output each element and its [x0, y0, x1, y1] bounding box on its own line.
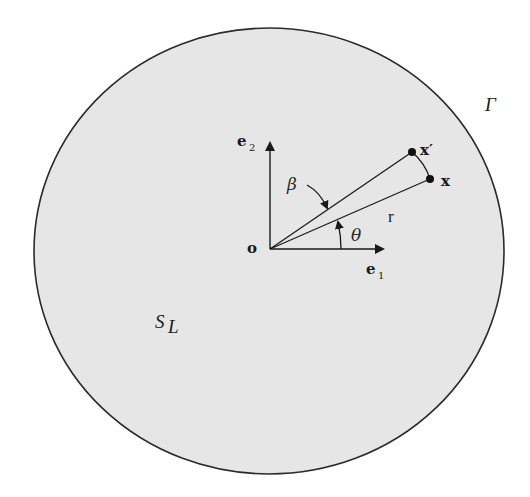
svg-text:e: e	[366, 260, 376, 278]
label-theta: θ	[351, 225, 361, 245]
point-x-prime-dot	[408, 148, 416, 156]
label-point-x: x	[441, 172, 451, 190]
label-beta: β	[286, 174, 297, 194]
svg-text:L: L	[167, 316, 179, 337]
label-gamma: Γ	[484, 94, 497, 115]
label-origin: o	[247, 239, 257, 257]
point-x-dot	[426, 175, 434, 183]
svg-text:1: 1	[378, 270, 384, 281]
label-point-x-prime: x′	[420, 141, 433, 159]
label-radius: r	[388, 207, 394, 226]
domain-region	[34, 28, 504, 474]
svg-text:e: e	[237, 132, 247, 150]
svg-text:2: 2	[249, 142, 255, 153]
svg-text:S: S	[155, 311, 165, 332]
domain-diagram: Γ S L o e 2 e 1 x′ x r θ β	[0, 0, 530, 497]
